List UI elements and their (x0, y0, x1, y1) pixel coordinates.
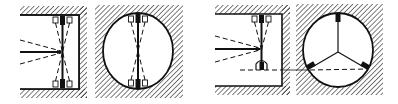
sensor-head-icon (67, 81, 72, 87)
sensor-head-icon (53, 17, 58, 23)
sensor-block-icon (60, 16, 65, 25)
sensor-head-icon (53, 81, 58, 87)
hatch-region (20, 89, 87, 98)
sensor-head-icon (143, 16, 148, 22)
panel-2-end-section (95, 5, 183, 98)
diagram-canvas (0, 0, 398, 104)
sensor-head-icon (129, 80, 134, 86)
sensor-block-icon (60, 79, 65, 88)
sensor-block-icon (260, 62, 265, 70)
sensor-head-icon (266, 16, 271, 22)
hatch-region (79, 6, 87, 98)
sensor-block-icon (136, 14, 141, 23)
panel-1-side-section (20, 6, 87, 98)
sensor-block-icon (336, 13, 341, 22)
sensor-head-icon (129, 16, 134, 22)
sensor-pair-top (252, 15, 271, 23)
panel-3-side-section (215, 5, 310, 95)
sensor-block-icon (259, 15, 264, 23)
hatch-region (282, 5, 290, 95)
panel-4-end-section (296, 4, 383, 95)
hatch-region (20, 6, 87, 15)
sensor-block-icon (136, 79, 141, 88)
sensor-head-icon (143, 80, 148, 86)
sensor-head-icon (252, 16, 257, 22)
hatch-region (215, 86, 290, 95)
sensor-head-icon (67, 17, 72, 23)
hatch-region (215, 5, 290, 14)
